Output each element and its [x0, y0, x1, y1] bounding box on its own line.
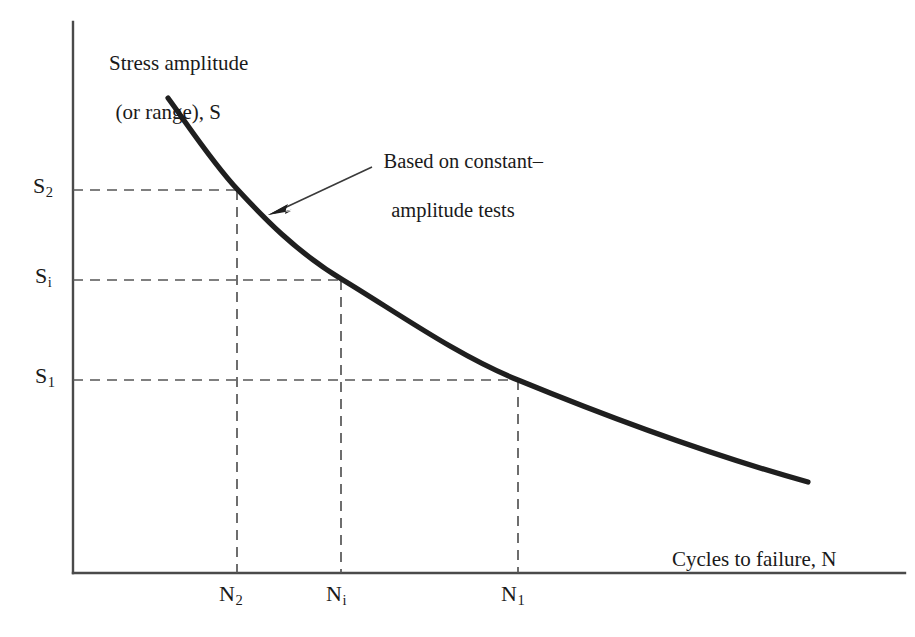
y-tick-si-base: S	[35, 263, 47, 288]
y-tick-label-s1: S1	[35, 363, 55, 389]
y-axis-title-line1: Stress amplitude	[109, 51, 248, 75]
x-tick-n2-base: N	[219, 581, 235, 606]
y-tick-label-s2: S2	[33, 173, 53, 199]
x-axis-title: Cycles to failure, N	[672, 547, 836, 572]
sn-curve-figure: Stress amplitude (or range), S Cycles to…	[0, 0, 915, 637]
y-tick-s2-base: S	[33, 173, 45, 198]
y-tick-s1-base: S	[35, 363, 47, 388]
y-tick-label-si: Si	[35, 263, 52, 289]
y-tick-s1-sub: 1	[47, 374, 55, 390]
x-tick-label-n1: N1	[501, 581, 525, 607]
y-tick-si-sub: i	[47, 274, 52, 290]
y-tick-s2-sub: 2	[45, 184, 53, 200]
x-tick-ni-sub: i	[342, 592, 347, 608]
x-tick-n2-sub: 2	[235, 592, 243, 608]
x-tick-label-n2: N2	[219, 581, 243, 607]
annotation-line2: amplitude tests	[363, 198, 543, 222]
x-tick-n1-sub: 1	[517, 592, 525, 608]
annotation-leader-line	[280, 167, 372, 210]
annotation-line1: Based on constant–	[384, 150, 543, 172]
x-tick-ni-base: N	[326, 581, 342, 606]
y-axis-title-line2: (or range), S	[88, 100, 248, 125]
annotation-label: Based on constant– amplitude tests	[363, 125, 543, 270]
x-tick-n1-base: N	[501, 581, 517, 606]
y-axis-title: Stress amplitude (or range), S	[88, 26, 248, 175]
x-tick-label-ni: Ni	[326, 581, 346, 607]
